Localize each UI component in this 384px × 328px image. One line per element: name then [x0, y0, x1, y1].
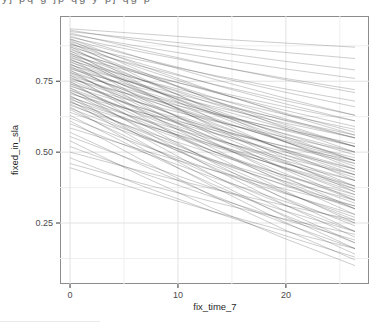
y-axis-title: fixed_in_sla — [9, 125, 20, 175]
fitted-line — [70, 29, 355, 47]
y-tick-label: 0.75 — [35, 76, 53, 86]
fitted-line — [70, 132, 355, 248]
x-tick-label: 10 — [173, 290, 183, 300]
y-tick-label: 0.25 — [35, 218, 53, 228]
ggplot-figure: yj pq g jp qg y pj qg p fixed_in_sla fix… — [0, 0, 384, 328]
bottom-artifact-line — [0, 321, 100, 322]
x-axis-title: fix_time_7 — [193, 301, 236, 312]
y-tick-label: 0.50 — [35, 147, 53, 157]
plot-canvas — [0, 0, 384, 328]
x-tick-label: 20 — [281, 290, 291, 300]
x-tick-label: 0 — [68, 290, 73, 300]
